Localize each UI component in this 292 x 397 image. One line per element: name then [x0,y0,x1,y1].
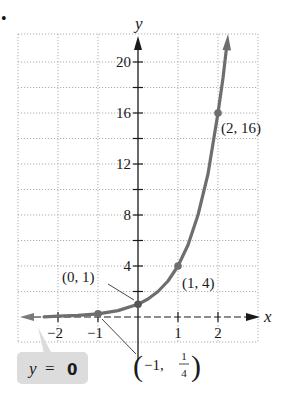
x-tick-2: 2 [214,325,222,341]
svg-text:1: 1 [181,350,187,362]
label-neg1-quarter: ( −1, 1 4 ) [133,349,201,383]
y-tick-20: 20 [116,54,131,70]
point-0-1 [134,301,142,309]
x-tick-neg1: −1 [87,325,103,341]
point-1-4 [174,262,182,270]
x-tick-1: 1 [174,325,182,341]
label-0-1: (0, 1) [62,269,95,286]
label-1-4: (1, 4) [182,275,215,292]
leader-line-0-1 [108,284,134,300]
x-axis-label: x [263,307,272,326]
x-tick-neg2: −2 [47,325,63,341]
asymptote-zero: 0 [67,361,77,379]
y-axis-arrow-icon [134,36,142,50]
asymptote-equals: = [45,359,55,378]
x-axis: x −2 −1 1 2 [20,307,272,341]
svg-text:−1,: −1, [144,357,164,373]
asymptote-y: y [27,359,37,378]
y-tick-12: 12 [116,156,131,172]
bullet-marker: • [1,10,7,27]
y-tick-16: 16 [116,105,132,121]
x-axis-arrow-left-icon [20,313,34,321]
leader-line-neg1-quarter [102,319,136,354]
point-neg1-quarter [94,310,102,318]
curve-arrow-icon [223,34,232,51]
point-2-16 [214,109,222,117]
svg-text:(: ( [133,349,143,383]
y-tick-8: 8 [124,207,132,223]
svg-text:): ) [191,349,201,383]
y-tick-4: 4 [124,258,132,274]
svg-text:4: 4 [181,367,187,379]
y-axis-label: y [133,14,143,33]
exponential-graph: • [0,0,292,397]
label-2-16: (2, 16) [221,120,261,137]
